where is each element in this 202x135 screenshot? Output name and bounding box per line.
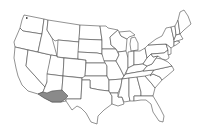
- state-florida: [134, 96, 164, 122]
- state-north-dakota: [79, 25, 102, 40]
- state-colorado: [63, 58, 86, 78]
- state-kansas: [85, 63, 107, 76]
- state-wyoming: [57, 40, 79, 59]
- us-map: [0, 0, 202, 135]
- state-south-dakota: [78, 39, 102, 54]
- state-iowa: [102, 49, 119, 61]
- puget-sound-marker: [26, 17, 28, 19]
- state-maine: [178, 10, 191, 34]
- state-connecticut: [174, 41, 180, 46]
